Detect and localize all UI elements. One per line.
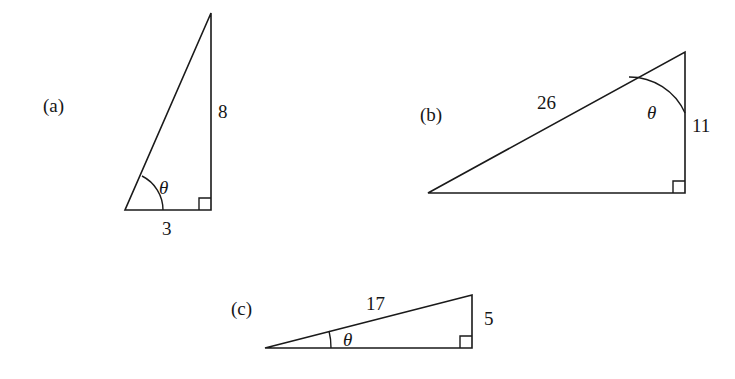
angle-label-a-theta: θ: [159, 178, 168, 197]
triangle-c-angle-arc: [329, 331, 331, 348]
angle-label-c-theta: θ: [343, 330, 352, 349]
side-length-c-hypotenuse: 17: [366, 294, 385, 313]
triangle-c-right-angle-marker: [460, 336, 472, 348]
side-length-b-vertical: 11: [692, 116, 710, 135]
side-length-c-vertical: 5: [484, 309, 494, 328]
triangle-a-right-angle-marker: [199, 198, 211, 210]
angle-label-b-theta: θ: [647, 103, 656, 122]
part-label-a: (a): [43, 96, 64, 115]
part-label-c: (c): [231, 299, 252, 318]
side-length-a-horizontal: 3: [162, 219, 172, 238]
side-length-b-hypotenuse: 26: [537, 93, 556, 112]
side-length-a-vertical: 8: [218, 102, 228, 121]
part-label-b: (b): [420, 105, 442, 124]
triangles-figure-canvas: [0, 0, 735, 379]
triangle-b-right-angle-marker: [673, 181, 685, 193]
triangle-b-angle-arc: [629, 77, 685, 113]
